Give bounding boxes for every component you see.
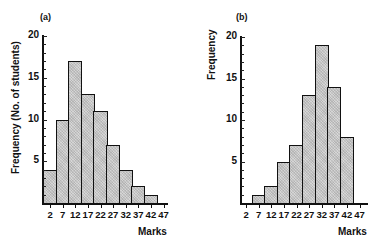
y-tick-label: 10 bbox=[23, 113, 39, 124]
y-minor-tick bbox=[241, 87, 244, 88]
y-minor-tick bbox=[241, 70, 244, 71]
y-minor-tick bbox=[241, 162, 245, 163]
x-tick bbox=[246, 204, 247, 208]
y-minor-tick bbox=[241, 128, 244, 129]
y-minor-tick bbox=[43, 170, 46, 171]
y-minor-tick bbox=[43, 161, 47, 162]
y-minor-tick bbox=[43, 136, 46, 137]
y-minor-tick bbox=[241, 62, 244, 63]
y-minor-tick bbox=[43, 86, 46, 87]
x-tick bbox=[113, 204, 114, 208]
y-minor-tick bbox=[241, 145, 244, 146]
y-axis-label: Frequency (No. of students) bbox=[10, 41, 21, 174]
x-axis-label: Marks bbox=[338, 226, 367, 237]
x-tick bbox=[360, 204, 361, 208]
y-minor-tick bbox=[241, 45, 244, 46]
y-minor-tick bbox=[43, 128, 46, 129]
x-tick bbox=[334, 204, 335, 208]
x-tick bbox=[309, 204, 310, 208]
y-tick-label: 10 bbox=[221, 113, 237, 124]
y-minor-tick bbox=[43, 53, 46, 54]
x-tick bbox=[297, 204, 298, 208]
y-tick-label: 15 bbox=[23, 71, 39, 82]
y-minor-tick bbox=[43, 153, 46, 154]
x-tick bbox=[151, 204, 152, 208]
y-minor-tick bbox=[241, 120, 245, 121]
y-tick-label: 20 bbox=[23, 29, 39, 40]
x-tick bbox=[259, 204, 260, 208]
y-minor-tick bbox=[241, 79, 245, 80]
x-tick bbox=[126, 204, 127, 208]
histogram-panel-a: (a) Frequency (No. of students) Marks 51… bbox=[0, 0, 184, 245]
x-tick bbox=[322, 204, 323, 208]
y-tick-label: 5 bbox=[221, 155, 237, 166]
y-minor-tick bbox=[43, 44, 46, 45]
y-tick-label: 5 bbox=[23, 154, 39, 165]
x-tick bbox=[347, 204, 348, 208]
y-minor-tick bbox=[241, 195, 244, 196]
x-tick bbox=[164, 204, 165, 208]
y-tick-label: 15 bbox=[221, 72, 237, 83]
x-tick bbox=[88, 204, 89, 208]
y-minor-tick bbox=[43, 61, 46, 62]
y-minor-tick bbox=[241, 170, 244, 171]
x-tick bbox=[271, 204, 272, 208]
x-tick-label: 47 bbox=[353, 209, 367, 220]
y-minor-tick bbox=[43, 78, 47, 79]
x-tick-label: 47 bbox=[157, 209, 171, 220]
y-minor-tick bbox=[43, 94, 46, 95]
panel-label: (b) bbox=[236, 12, 248, 22]
y-minor-tick bbox=[43, 195, 46, 196]
y-minor-tick bbox=[241, 112, 244, 113]
x-tick bbox=[101, 204, 102, 208]
histogram-bar bbox=[340, 137, 354, 204]
histogram-panel-b: (b) Frequency Marks 51015202712172227323… bbox=[184, 0, 368, 245]
y-minor-tick bbox=[43, 69, 46, 70]
y-minor-tick bbox=[241, 178, 244, 179]
x-tick bbox=[63, 204, 64, 208]
y-minor-tick bbox=[43, 178, 46, 179]
y-minor-tick bbox=[241, 95, 244, 96]
y-minor-tick bbox=[43, 111, 46, 112]
x-tick bbox=[50, 204, 51, 208]
y-minor-tick bbox=[43, 36, 47, 37]
y-minor-tick bbox=[43, 120, 47, 121]
x-axis bbox=[42, 203, 168, 205]
y-minor-tick bbox=[43, 145, 46, 146]
y-tick-label: 20 bbox=[221, 30, 237, 41]
x-tick bbox=[138, 204, 139, 208]
y-minor-tick bbox=[241, 137, 244, 138]
x-tick bbox=[284, 204, 285, 208]
panel-label: (a) bbox=[40, 12, 51, 22]
y-minor-tick bbox=[43, 186, 46, 187]
y-minor-tick bbox=[241, 54, 244, 55]
y-minor-tick bbox=[241, 153, 244, 154]
y-axis-label: Frequency bbox=[206, 29, 217, 80]
y-minor-tick bbox=[241, 186, 244, 187]
y-minor-tick bbox=[241, 37, 245, 38]
y-minor-tick bbox=[241, 103, 244, 104]
y-minor-tick bbox=[43, 103, 46, 104]
x-axis-label: Marks bbox=[138, 226, 167, 237]
x-tick bbox=[75, 204, 76, 208]
